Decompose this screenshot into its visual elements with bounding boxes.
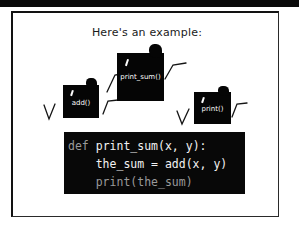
bracket-right-print-sum bbox=[163, 61, 187, 81]
code-line-1-body: print_sum(x, y): bbox=[96, 139, 207, 153]
comic-panel-frame: Here's an example: bbox=[11, 11, 279, 217]
function-blob-print[interactable]: print() bbox=[194, 92, 231, 124]
bracket-left-print bbox=[176, 108, 192, 126]
function-blob-print-sum[interactable]: print_sum() bbox=[117, 53, 164, 101]
blob-body-add bbox=[63, 85, 99, 118]
code-line-2: the_sum = add(x, y) bbox=[68, 155, 245, 173]
code-keyword-def: def bbox=[68, 139, 96, 153]
bracket-left-add bbox=[43, 103, 57, 121]
top-black-bar bbox=[0, 0, 299, 7]
comic-page: Here's an example: bbox=[0, 0, 299, 230]
code-line-3: print(the_sum) bbox=[68, 173, 245, 191]
blob-knob-print-sum bbox=[149, 44, 162, 58]
function-blob-add[interactable]: add() bbox=[63, 85, 99, 118]
page-title: Here's an example: bbox=[13, 26, 281, 39]
code-line-1: def print_sum(x, y): bbox=[68, 137, 245, 155]
code-block[interactable]: def print_sum(x, y): the_sum = add(x, y)… bbox=[64, 132, 245, 194]
blob-knob-add bbox=[86, 78, 97, 89]
bracket-right-print bbox=[230, 101, 248, 119]
blob-body-print-sum bbox=[117, 53, 164, 101]
blob-knob-print bbox=[218, 86, 229, 96]
blob-body-print bbox=[194, 92, 231, 124]
